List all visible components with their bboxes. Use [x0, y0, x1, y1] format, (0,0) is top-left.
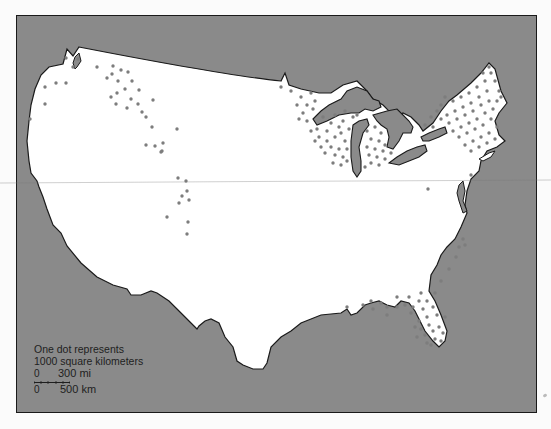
scale-bar: 0 300 mi 0 500 km [34, 370, 114, 400]
scale-mi-label: 300 mi [58, 367, 91, 379]
us-landmass [27, 47, 507, 369]
scale-km-label: 500 km [60, 383, 96, 395]
scale-mi-zero: 0 [34, 368, 40, 379]
scan-smudge [543, 393, 548, 398]
legend-line-1: One dot represents [34, 343, 143, 355]
legend-line-2: 1000 square kilometers [34, 355, 143, 367]
legend: One dot represents 1000 square kilometer… [34, 343, 143, 367]
scale-km-zero: 0 [34, 384, 40, 395]
